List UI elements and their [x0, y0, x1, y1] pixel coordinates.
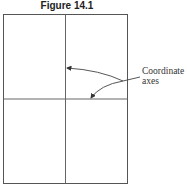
- label-line-2: axes: [142, 76, 184, 86]
- arrow-to-vertical-axis: [67, 68, 123, 81]
- coordinate-diagram: [0, 0, 187, 187]
- label-line-1: Coordinate: [142, 66, 184, 76]
- arrow-to-horizontal-axis: [91, 81, 123, 98]
- label-leader-line: [123, 77, 140, 81]
- coordinate-axes-label: Coordinate axes: [142, 66, 184, 86]
